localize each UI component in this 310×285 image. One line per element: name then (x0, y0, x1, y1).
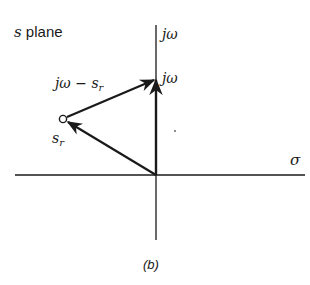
s-plane-title: s plane (14, 24, 63, 40)
imaginary-axis-label: jω (162, 27, 178, 41)
pole-point-sr (59, 115, 66, 122)
speck-mark (174, 130, 176, 132)
difference-prefix: jω − s (55, 75, 99, 91)
pole-label: sr (52, 131, 64, 148)
title-italic-s: s (14, 23, 22, 41)
sr-vector (68, 122, 156, 175)
difference-subscript: r (99, 82, 104, 93)
title-rest: plane (22, 23, 63, 40)
figure-caption: (b) (143, 258, 159, 271)
jw-point-label: jω (162, 71, 178, 85)
difference-vector-label: jω − sr (55, 76, 103, 93)
real-axis-label: σ (290, 153, 300, 168)
s-plane-diagram (0, 0, 310, 285)
pole-subscript: r (59, 137, 64, 148)
